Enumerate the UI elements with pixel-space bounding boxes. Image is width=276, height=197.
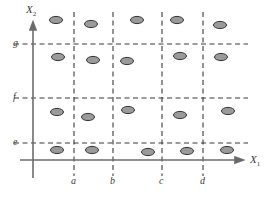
- data-point: [50, 16, 63, 23]
- data-point: [221, 146, 234, 153]
- data-point: [131, 16, 144, 23]
- axes-group: [20, 22, 243, 178]
- x-axis-title: X1: [250, 154, 260, 168]
- data-point: [222, 107, 235, 114]
- x-tick-label-b: b: [110, 176, 115, 186]
- data-point: [142, 148, 155, 155]
- data-point: [121, 57, 134, 64]
- data-point: [214, 21, 227, 28]
- data-point-group: [50, 16, 235, 155]
- data-point: [52, 53, 65, 60]
- x-tick-label-d: d: [200, 176, 205, 186]
- x-tick-label-c: c: [159, 176, 163, 186]
- y-tick-label-f: f: [13, 92, 16, 102]
- data-point: [181, 147, 194, 154]
- data-point: [174, 52, 187, 59]
- x-tick-label-a: a: [71, 176, 76, 186]
- y-tick-label-g: g: [13, 38, 18, 48]
- data-point: [86, 146, 99, 153]
- scatter-grid-figure: X2 X1 abcd efg: [0, 0, 276, 197]
- y-axis-title: X2: [26, 4, 36, 18]
- y-tick-label-e: e: [13, 137, 17, 147]
- data-point: [85, 20, 98, 27]
- plot-canvas: [0, 0, 276, 197]
- data-point: [51, 108, 64, 115]
- data-point: [215, 53, 228, 60]
- data-point: [174, 111, 187, 118]
- data-point: [51, 146, 64, 153]
- data-point: [87, 56, 100, 63]
- data-point: [82, 113, 95, 120]
- data-point: [171, 16, 184, 23]
- data-point: [122, 106, 135, 113]
